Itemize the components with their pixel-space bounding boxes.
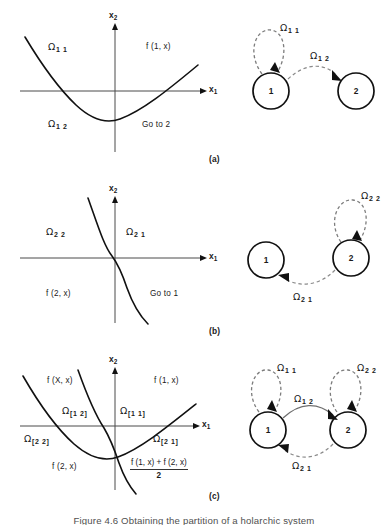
panel-a: x2 x1 Ω1 1 Ω1 2 f (1, x) Go to 2 1 2	[0, 0, 388, 178]
y-axis-arrowhead	[112, 196, 118, 203]
self-loop-node-2	[335, 200, 367, 242]
state-node-2-label: 2	[346, 425, 351, 435]
edge-label-omega-21: Ω2 1	[293, 291, 313, 303]
panel-a-x-axis-label: x1	[209, 84, 217, 95]
transition-2-to-1-arrowhead	[278, 273, 289, 282]
label-go-to-2: Go to 2	[142, 121, 170, 129]
fraction-denominator: 2	[130, 470, 188, 481]
panel-c-plot: x2 x1 f (X, x) f (1, x) f (2, x) Ω[1 2] …	[8, 350, 223, 512]
panel-c: x2 x1 f (X, x) f (1, x) f (2, x) Ω[1 2] …	[0, 350, 388, 512]
label-f-2-x: f (2, x)	[46, 290, 71, 298]
region-label-omega-12-bracket: Ω[1 2]	[62, 405, 87, 417]
region-label-omega-11: Ω1 1	[48, 41, 68, 53]
region-label-omega-22: Ω2 2	[46, 226, 66, 238]
edge-label-omega-12: Ω1 2	[294, 393, 314, 405]
region-label-omega-12: Ω1 2	[48, 118, 68, 130]
label-f-1-x: f (1, x)	[146, 43, 171, 51]
y-axis-arrowhead	[112, 367, 118, 374]
panel-a-tag: (a)	[209, 154, 220, 164]
fraction-numerator: f (1, x) + f (2, x)	[130, 458, 188, 470]
curve-f2x	[88, 198, 148, 324]
x-axis-arrowhead	[200, 88, 207, 94]
panel-c-tag: (c)	[209, 491, 220, 501]
region-label-omega-11-bracket: Ω[1 1]	[120, 405, 145, 417]
self-loop-1-arrowhead	[267, 400, 277, 412]
state-node-2-label: 2	[349, 253, 354, 263]
edge-label-omega-21: Ω2 1	[292, 460, 312, 472]
panel-c-x-axis-label: x1	[202, 419, 210, 430]
figure-caption: Figure 4.6 Obtaining the partition of a …	[0, 515, 388, 525]
panel-a-plot-svg	[8, 0, 223, 178]
edge-label-omega-22: Ω2 2	[357, 362, 377, 374]
state-node-1-label: 1	[269, 86, 274, 96]
label-f-X-x: f (X, x)	[47, 377, 73, 385]
panel-a-plot: x2 x1 Ω1 1 Ω1 2 f (1, x) Go to 2	[8, 0, 223, 178]
panel-b-graph-svg	[238, 178, 388, 350]
self-loop-node-1	[252, 370, 281, 412]
panel-b-plot: x2 x1 Ω2 2 Ω2 1 f (2, x) Go to 1	[8, 178, 223, 350]
region-label-omega-21-bracket: Ω[2 1]	[153, 433, 178, 445]
x-axis-arrowhead	[193, 423, 200, 429]
transition-2-to-1-arrowhead	[278, 444, 289, 453]
state-node-1-label: 1	[264, 255, 269, 265]
average-cost-fraction: f (1, x) + f (2, x) 2	[130, 458, 188, 482]
panel-a-y-axis-label: x2	[109, 10, 117, 21]
figure-container: x2 x1 Ω1 1 Ω1 2 f (1, x) Go to 2 1 2	[0, 0, 388, 525]
curve-f2x	[78, 370, 136, 494]
label-f-1-x: f (1, x)	[154, 377, 179, 385]
transition-arc-2-to-1	[283, 444, 333, 457]
label-f-2-x: f (2, x)	[52, 463, 77, 471]
transition-arc-1-to-2	[288, 66, 337, 79]
label-go-to-1: Go to 1	[150, 290, 178, 298]
curve-f1x	[23, 376, 196, 459]
y-axis-arrowhead	[112, 23, 118, 30]
region-label-omega-22-bracket: Ω[2 2]	[24, 433, 49, 445]
panel-b-x-axis-label: x1	[209, 251, 217, 262]
panel-a-state-graph: 1 2 Ω1 1 Ω1 2	[238, 0, 388, 178]
panel-c-y-axis-label: x2	[109, 354, 117, 365]
edge-label-omega-12: Ω1 2	[310, 50, 330, 62]
panel-b-tag: (b)	[209, 326, 220, 336]
x-axis-arrowhead	[200, 255, 207, 261]
edge-label-omega-11: Ω1 1	[280, 22, 300, 34]
self-loop-node-2	[330, 370, 361, 412]
edge-label-omega-11: Ω1 1	[277, 362, 297, 374]
self-loop-node-1	[254, 30, 284, 74]
panel-c-state-graph: 1 2 Ω1 1 Ω2 2 Ω1 2 Ω2 1	[238, 350, 388, 512]
transition-arc-2-to-1	[284, 270, 335, 284]
panel-b-plot-svg	[8, 178, 223, 350]
self-loop-2-arrowhead	[347, 400, 357, 412]
transition-1-to-2-arrowhead	[332, 70, 342, 81]
region-label-omega-21: Ω2 1	[126, 226, 146, 238]
panel-b: x2 x1 Ω2 2 Ω2 1 f (2, x) Go to 1 1 2	[0, 178, 388, 350]
panel-b-state-graph: 1 2 Ω2 2 Ω2 1	[238, 178, 388, 350]
self-loop-1-arrowhead	[270, 62, 280, 73]
panel-c-graph-svg	[238, 350, 388, 512]
state-node-1-label: 1	[266, 425, 271, 435]
panel-c-plot-svg	[8, 350, 223, 512]
panel-b-y-axis-label: x2	[109, 183, 117, 194]
state-node-2-label: 2	[354, 86, 359, 96]
transition-arc-1-to-2	[283, 406, 333, 418]
edge-label-omega-22: Ω2 2	[361, 190, 381, 202]
panel-a-graph-svg	[238, 0, 388, 178]
